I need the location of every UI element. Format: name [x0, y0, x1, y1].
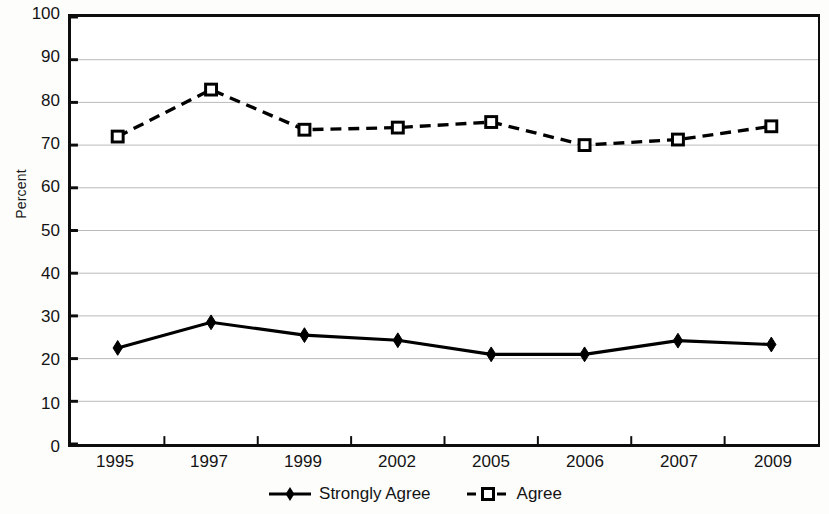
data-point-marker	[112, 131, 123, 142]
y-axis-tick-label: 10	[14, 395, 60, 412]
x-axis-tick-label: 2006	[566, 452, 604, 472]
y-axis-tick-label: 0	[14, 438, 60, 455]
y-axis-tick-label: 20	[14, 351, 60, 368]
data-point-marker	[299, 124, 310, 135]
y-axis-tick-label: 30	[14, 308, 60, 325]
y-axis-tick-label: 80	[14, 92, 60, 109]
legend-diamond-icon	[267, 485, 313, 503]
legend-label: Agree	[517, 484, 562, 503]
x-axis-tick-label: 1995	[96, 452, 134, 472]
x-axis-tick-label: 2009	[754, 452, 792, 472]
x-axis-tick-label: 1999	[284, 452, 322, 472]
data-point-marker	[206, 84, 217, 95]
x-axis-tick-label: 2005	[472, 452, 510, 472]
data-point-marker	[393, 333, 402, 348]
chart-legend: Strongly AgreeAgree	[0, 484, 829, 503]
data-point-marker	[487, 347, 496, 362]
y-axis-tick-label: 70	[14, 135, 60, 152]
series-1	[113, 315, 776, 362]
data-point-marker	[579, 140, 590, 151]
data-point-marker	[672, 134, 683, 145]
y-axis-tick-label: 100	[14, 5, 60, 22]
y-axis-tick-label: 50	[14, 222, 60, 239]
legend-square-icon	[465, 485, 511, 503]
y-axis-tick-label: 40	[14, 265, 60, 282]
plot-area	[68, 14, 820, 447]
data-point-marker	[766, 121, 777, 132]
series-2	[112, 84, 777, 150]
x-axis-tick-labels: 19951997199920022005200620072009	[68, 452, 820, 478]
data-series-layer	[71, 17, 818, 444]
x-axis-tick-label: 2007	[660, 452, 698, 472]
data-point-marker	[486, 117, 497, 128]
y-axis-tick-labels: 1009080706050403020100	[8, 0, 60, 514]
data-point-marker	[206, 315, 215, 330]
data-point-marker	[767, 337, 776, 352]
x-axis-tick-label: 1997	[190, 452, 228, 472]
y-axis-tick-label: 90	[14, 48, 60, 65]
y-axis-tick-label: 60	[14, 178, 60, 195]
data-point-marker	[392, 122, 403, 133]
legend-label: Strongly Agree	[319, 484, 431, 503]
line-chart: Percent 1009080706050403020100 199519971…	[0, 0, 829, 514]
data-point-marker	[113, 341, 122, 356]
legend-item: Agree	[465, 484, 562, 503]
data-point-marker	[300, 328, 309, 343]
x-axis-tick-label: 2002	[378, 452, 416, 472]
legend-item: Strongly Agree	[267, 484, 431, 503]
data-point-marker	[673, 333, 682, 348]
data-point-marker	[580, 347, 589, 362]
